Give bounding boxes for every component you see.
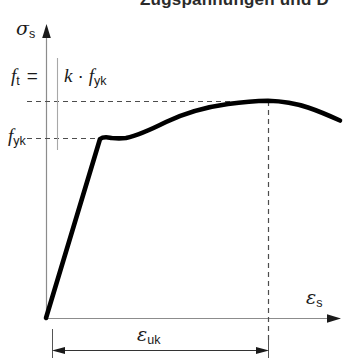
fyk-subscript: yk: [94, 74, 107, 88]
multiplication-dot: ·: [72, 65, 88, 86]
x-axis-label-subscript: s: [316, 296, 322, 310]
figure-heading: Zugspannungen und D: [140, 0, 329, 8]
euk-dimension-label: εuk: [137, 325, 160, 344]
y-axis-arrowhead: [42, 24, 51, 38]
ft-subscript: t: [16, 74, 19, 88]
equals-sign: =: [20, 65, 38, 86]
x-axis-label: εs: [306, 288, 322, 307]
diagram-canvas: [0, 0, 351, 363]
stress-strain-curve: [46, 101, 340, 318]
stress-strain-diagram: Zugspannungen und D σs εs ft= k·fyk fyk …: [0, 0, 351, 363]
euk-dimension-arrowhead-left: [52, 347, 65, 354]
x-axis-arrowhead: [327, 314, 341, 323]
ft-axis-label: ft=: [11, 66, 38, 85]
ft-expression-label: k·fyk: [64, 66, 107, 85]
euk-symbol: ε: [137, 323, 147, 345]
y-axis-label: σs: [16, 19, 35, 38]
y-axis-label-symbol: σ: [16, 17, 29, 39]
euk-dimension-arrowhead-right: [256, 347, 269, 354]
x-axis-label-symbol: ε: [306, 286, 316, 308]
fyk-tick-subscript: yk: [13, 134, 26, 148]
euk-subscript: uk: [147, 333, 160, 347]
y-axis-label-subscript: s: [29, 27, 35, 41]
fyk-axis-label: fyk: [8, 126, 26, 145]
